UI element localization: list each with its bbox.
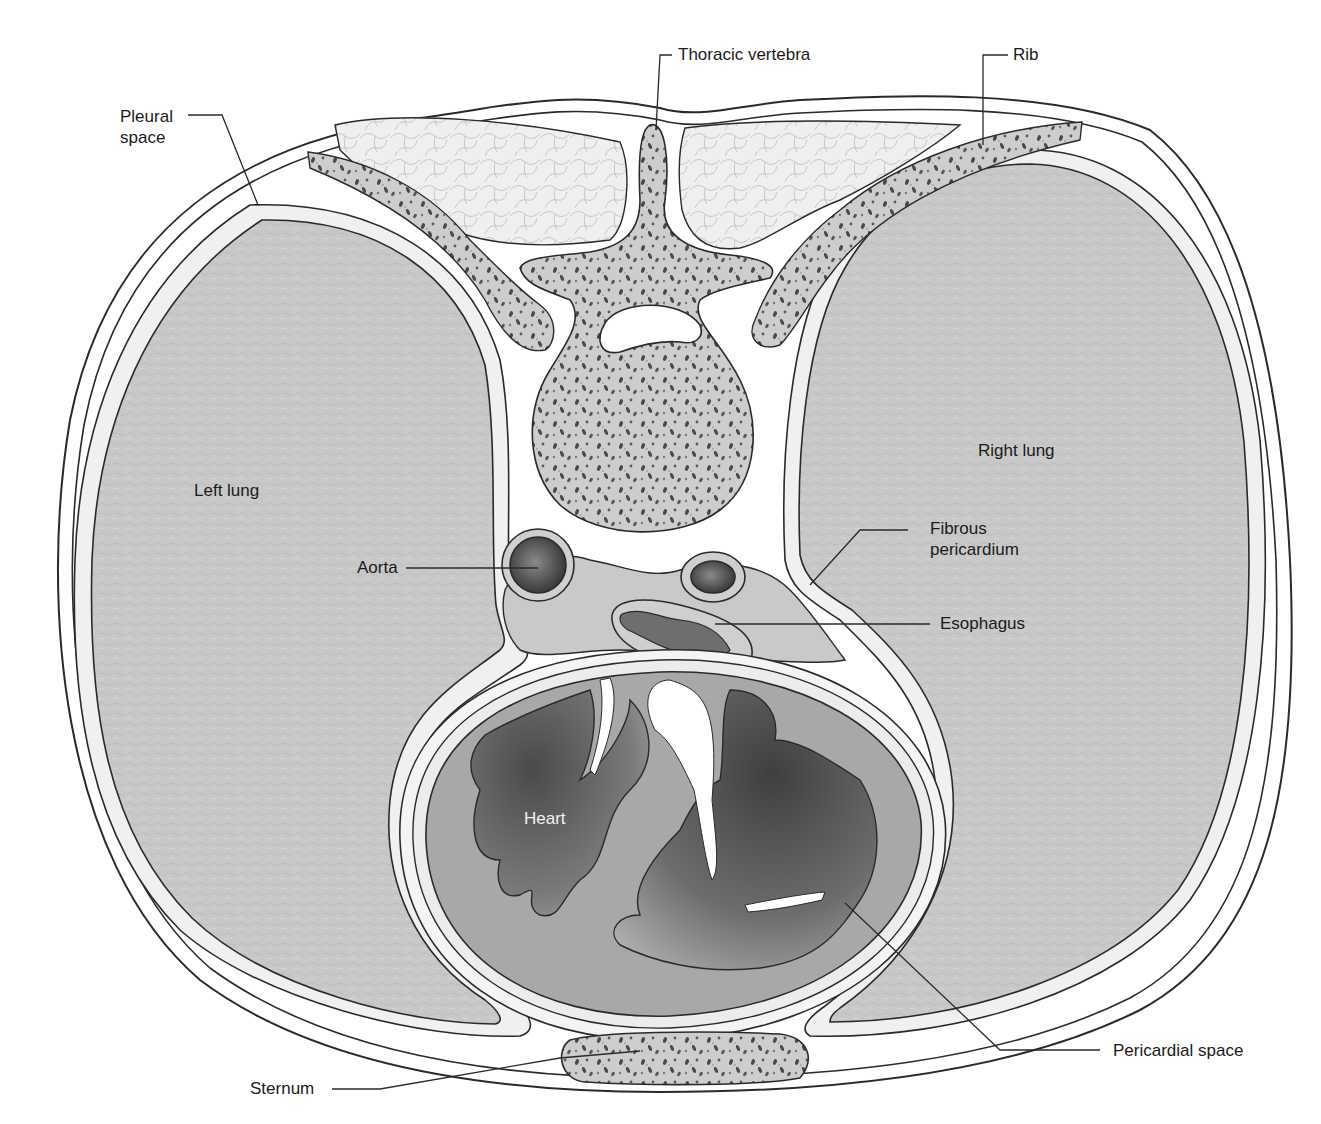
label-rib: Rib	[1013, 44, 1039, 65]
label-right-lung: Right lung	[978, 440, 1055, 461]
label-esophagus: Esophagus	[940, 613, 1025, 634]
label-pleural-space-line1: Pleural	[120, 106, 173, 127]
sternum	[562, 1032, 809, 1085]
label-thoracic-vertebra: Thoracic vertebra	[678, 44, 810, 65]
label-heart: Heart	[524, 808, 566, 829]
label-sternum: Sternum	[250, 1078, 314, 1099]
label-fibrous-pericardium-line1: Fibrous	[930, 518, 1019, 539]
label-pericardial-space: Pericardial space	[1113, 1040, 1243, 1061]
label-left-lung: Left lung	[194, 480, 259, 501]
vessel-right	[681, 552, 745, 602]
label-pleural-space-line2: space	[120, 127, 173, 148]
label-aorta: Aorta	[357, 557, 398, 578]
label-fibrous-pericardium-line2: pericardium	[930, 539, 1019, 560]
aorta	[502, 529, 574, 601]
thorax-cross-section-diagram	[0, 0, 1321, 1124]
label-fibrous-pericardium: Fibrous pericardium	[930, 518, 1019, 560]
label-pleural-space: Pleural space	[120, 106, 173, 148]
